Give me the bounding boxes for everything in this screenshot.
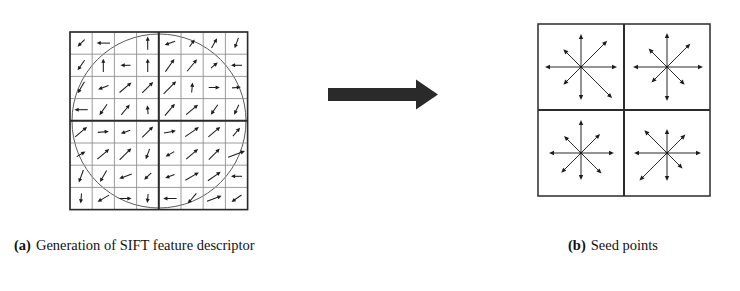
seed-orientation-arrow-head (612, 65, 617, 69)
gradient-arrow-shaft (165, 62, 172, 72)
gradient-arrow-shaft (186, 151, 195, 159)
seed-center-dot (666, 66, 669, 69)
gradient-arrow-head (146, 59, 150, 63)
gradient-arrow-head (146, 36, 150, 40)
panel-b-seed-points (520, 8, 730, 218)
gradient-arrow-head (121, 130, 126, 134)
gradient-arrow-head (119, 175, 124, 179)
gradient-arrow-shaft (101, 195, 110, 200)
seed-orientation-arrow-shaft (652, 52, 667, 67)
seed-bottom-right (634, 129, 701, 181)
gradient-arrow-head (165, 175, 170, 179)
gradient-arrow-shaft (187, 62, 195, 71)
seed-orientation-arrow-shaft (667, 67, 682, 82)
seed-orientation-arrow-shaft (667, 47, 687, 67)
gradient-arrow-head (194, 127, 199, 131)
gradient-arrow-shaft (97, 151, 106, 159)
gradient-arrow-shaft (168, 41, 175, 44)
gradient-arrow-head (211, 110, 215, 115)
caption-a: (a)Generation of SIFT feature descriptor (14, 238, 255, 254)
gradient-arrow-shaft (213, 105, 218, 112)
figure-root: (a)Generation of SIFT feature descriptor… (0, 0, 740, 291)
caption-b-tag: (b) (568, 237, 586, 253)
gradient-arrow-shaft (185, 129, 196, 137)
seed-center-dot (666, 152, 669, 155)
gradient-arrow-head (231, 63, 235, 67)
gradient-arrow-shaft (207, 197, 218, 201)
seed-orientation-arrow-shaft (566, 52, 581, 67)
gradient-arrow-shaft (80, 60, 85, 67)
seed-orientation-arrow-shaft (581, 44, 604, 67)
gradient-arrow-head (79, 199, 83, 203)
gradient-arrow-head (190, 83, 194, 87)
seed-center-dot (580, 66, 583, 69)
gradient-arrow-head (101, 59, 105, 63)
seed-orientation-arrow-head (545, 65, 550, 69)
gradient-arrow-shaft (236, 105, 239, 112)
seed-orientation-arrow-head (579, 34, 583, 39)
gradient-arrow-shaft (142, 84, 151, 93)
gradient-arrow-shaft (169, 152, 175, 155)
grid-quadrant-lines (70, 32, 248, 210)
gradient-arrow-shaft (190, 42, 193, 46)
gradient-arrow-shaft (212, 41, 216, 48)
seed-orientation-arrow-shaft (647, 133, 667, 153)
seed-orientation-arrow-head (579, 175, 583, 180)
gradient-arrow-shaft (164, 84, 174, 94)
seed-orientation-arrow-head (665, 129, 669, 134)
seed-orientation-arrow-head (579, 95, 583, 100)
transform-arrow-shaft (328, 88, 416, 101)
seed-top-right (633, 33, 703, 101)
gradient-arrow-head (121, 63, 125, 67)
gradient-arrow-shaft (98, 132, 106, 133)
gradient-arrow-shaft (80, 170, 83, 179)
gradient-arrow-shaft (80, 40, 85, 45)
gradient-arrow-shaft (122, 174, 131, 177)
gradient-arrow-head (78, 66, 82, 71)
gradient-arrow-shaft (208, 129, 217, 137)
gradient-arrow-shaft (124, 130, 130, 132)
gradient-arrow-shaft (233, 130, 238, 136)
seed-orientation-arrow-shaft (581, 153, 599, 171)
gradient-arrow-shaft (142, 129, 151, 138)
gradient-arrow-shaft (168, 175, 174, 177)
seed-orientation-arrow-head (633, 65, 638, 69)
gradient-arrow-shaft (164, 131, 173, 133)
gradient-arrow-shaft (209, 151, 218, 160)
gradient-arrow-head (216, 86, 220, 90)
gradient-arrow-shaft (208, 174, 218, 181)
gradient-arrow-head (146, 199, 150, 203)
gradient-arrow-shaft (186, 107, 195, 115)
gradient-arrow-head (170, 59, 174, 64)
sift-descriptor-window-graphic (18, 8, 288, 223)
seed-orientation-arrow-shaft (654, 67, 667, 80)
gradient-arrow-head (163, 197, 167, 201)
seed-orientation-arrow-head (549, 151, 554, 155)
seed-orientation-arrow-head (579, 120, 583, 125)
caption-b-text: Seed points (591, 237, 658, 253)
gradient-arrow-shaft (236, 38, 239, 45)
gradient-arrow-shaft (120, 151, 129, 160)
gradient-arrow-shaft (101, 104, 107, 112)
gradient-arrow-head (78, 178, 82, 183)
seed-points-graphic (520, 8, 730, 218)
gradient-arrow-head (98, 86, 103, 90)
seed-orientation-arrow-head (665, 33, 669, 38)
seed-top-left (545, 34, 617, 100)
gradient-arrow-head (234, 44, 238, 49)
transform-arrow-head (416, 80, 438, 110)
seed-bottom-left (549, 120, 614, 180)
gradient-arrow-head (145, 155, 149, 160)
gradient-arrow-head (217, 195, 222, 199)
seed-orientation-arrow-shaft (566, 67, 581, 82)
seed-orientation-arrow-head (665, 176, 669, 181)
gradient-arrow-head (165, 42, 170, 46)
gradient-arrow-shaft (81, 194, 82, 201)
seed-orientation-arrow-head (634, 151, 639, 155)
gradient-arrow-head (231, 174, 235, 178)
panel-a-descriptor-window (18, 8, 288, 223)
transform-arrow-icon (318, 78, 438, 118)
transform-arrow-container (318, 78, 438, 118)
gradient-arrow-head (99, 111, 103, 116)
gradient-arrow-shaft (101, 86, 108, 89)
